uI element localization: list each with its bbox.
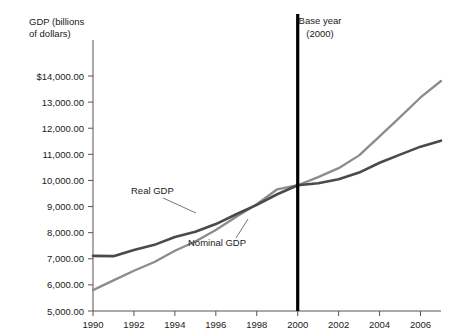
x-tick-label-1998: 1998 — [246, 319, 267, 330]
base-year-label-line1: Base year — [299, 15, 342, 26]
x-tick-label-1996: 1996 — [205, 319, 226, 330]
y-tick-label-10000: 10,000.00 — [42, 175, 84, 186]
chart-canvas: GDP (billions of dollars) 5,000.006,000.… — [0, 0, 456, 336]
x-tick-label-1994: 1994 — [164, 319, 185, 330]
x-tick-label-1992: 1992 — [123, 319, 144, 330]
x-tick-label-2000: 2000 — [287, 319, 308, 330]
y-tick-label-12000: 12,000.00 — [42, 123, 84, 134]
x-tick-label-2004: 2004 — [369, 319, 390, 330]
x-tick-label-2002: 2002 — [328, 319, 349, 330]
real-gdp-series-label: Real GDP — [131, 185, 174, 196]
x-tick-label-2006: 2006 — [410, 319, 431, 330]
y-tick-label-7000: 7,000.00 — [47, 253, 84, 264]
gdp-line-chart: GDP (billions of dollars) 5,000.006,000.… — [0, 0, 456, 336]
y-tick-label-14000: $14,000.00 — [36, 71, 84, 82]
y-axis-title-line2: of dollars) — [29, 28, 71, 39]
y-tick-label-13000: 13,000.00 — [42, 97, 84, 108]
base-year-label-line2: (2000) — [306, 28, 333, 39]
y-tick-label-6000: 6,000.00 — [47, 279, 84, 290]
x-tick-label-1990: 1990 — [82, 319, 103, 330]
y-axis-ticks: 5,000.006,000.007,000.008,000.009,000.00… — [36, 71, 93, 317]
nominal-gdp-leader-line — [236, 219, 248, 238]
real-gdp-leader-line — [163, 198, 196, 213]
y-tick-label-8000: 8,000.00 — [47, 227, 84, 238]
x-axis-ticks: 199019921994199619982000200220042006 — [82, 311, 431, 330]
y-tick-label-5000: 5,000.00 — [47, 306, 84, 317]
nominal-gdp-series-label: Nominal GDP — [188, 237, 246, 248]
y-axis-title-line1: GDP (billions — [29, 16, 85, 27]
series-line-real-gdp — [93, 141, 441, 256]
y-tick-label-9000: 9,000.00 — [47, 201, 84, 212]
y-tick-label-11000: 11,000.00 — [42, 149, 84, 160]
